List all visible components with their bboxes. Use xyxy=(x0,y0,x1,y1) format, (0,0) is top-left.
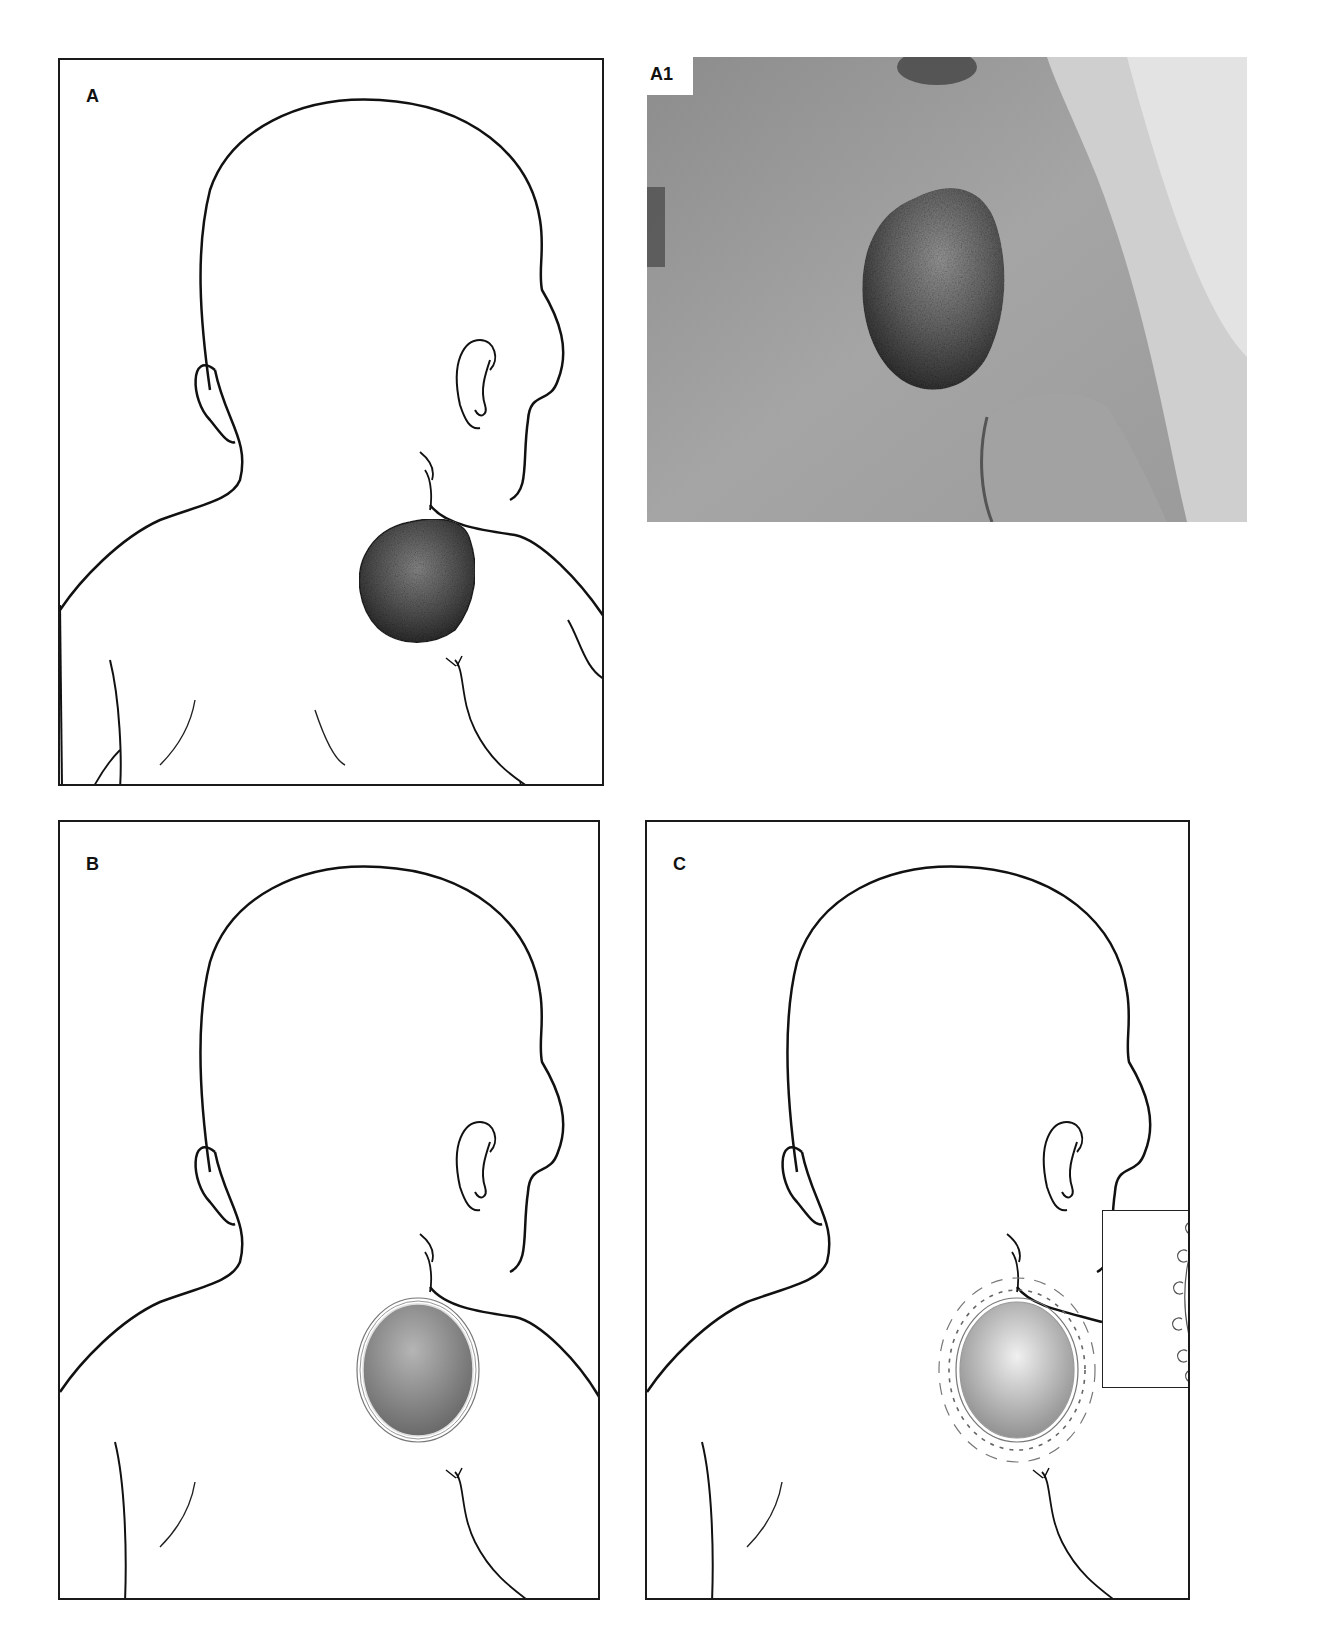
graft-b xyxy=(363,1304,473,1436)
panel-c: C xyxy=(645,820,1190,1600)
panel-b: B xyxy=(58,820,600,1600)
infant-back-drawing-b xyxy=(60,822,600,1600)
panel-a: A xyxy=(58,58,604,786)
infant-back-drawing-a xyxy=(60,60,604,786)
panel-a1-photo: A1 xyxy=(647,57,1247,522)
graft-c xyxy=(960,1302,1074,1438)
inset-graft-edge-detail xyxy=(1103,1211,1190,1387)
clinical-photo-lesion xyxy=(647,57,1247,522)
magnified-inset xyxy=(1102,1210,1190,1388)
panel-label-a1: A1 xyxy=(650,64,673,85)
lesion-a xyxy=(359,519,475,642)
